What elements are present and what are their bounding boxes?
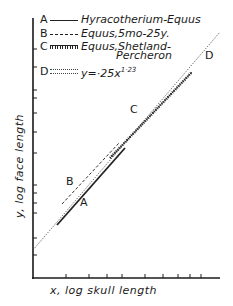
dashed-line-icon: [50, 34, 78, 35]
series-label-a: A: [80, 196, 88, 209]
series-line-b: [62, 143, 119, 204]
legend-item-d: Dy=·25x1·23: [40, 64, 136, 80]
dotted-line-icon: [50, 69, 78, 74]
series-line-c-core: [110, 72, 192, 158]
equation-exponent: 1·23: [121, 66, 137, 74]
legend-key: C: [40, 41, 50, 53]
series-label-d: D: [205, 49, 213, 62]
y-axis-label: y, log face length: [13, 114, 26, 218]
legend-item-a: AHyracotherium-Equus: [40, 14, 201, 26]
legend-label: Hyracotherium-Equus: [81, 14, 201, 26]
legend-label-continuation: Percheron: [116, 49, 172, 62]
legend-key: D: [40, 66, 50, 78]
series-label-c: C: [130, 103, 138, 116]
series-label-b: B: [66, 175, 74, 188]
x-axis-label: x, log skull length: [50, 284, 157, 297]
solid-line-icon: [50, 20, 78, 21]
legend-equation: y=·25x1·23: [81, 64, 136, 80]
equation-base: y=·25x: [81, 67, 121, 80]
crossed-line-icon: [50, 45, 78, 49]
legend-item-b: BEquus,5mo-25y.: [40, 28, 170, 40]
legend-label: Equus,5mo-25y.: [81, 28, 170, 40]
legend-key: B: [40, 28, 50, 40]
legend-key: A: [40, 14, 50, 26]
